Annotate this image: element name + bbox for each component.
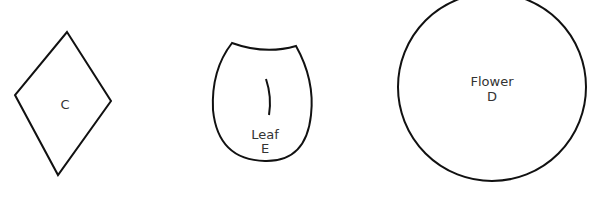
diamond-shape-c: C xyxy=(15,32,111,175)
leaf-label-letter: E xyxy=(261,141,269,156)
leaf-shape-e: Leaf E xyxy=(213,43,312,161)
diamond-label: C xyxy=(60,97,69,112)
circle-shape-d: Flower D xyxy=(398,0,586,181)
flower-label-letter: D xyxy=(487,89,497,104)
diagram-canvas: C Leaf E Flower D xyxy=(0,0,594,207)
leaf-label-name: Leaf xyxy=(251,127,279,142)
leaf-midrib xyxy=(266,79,270,115)
flower-label-name: Flower xyxy=(470,74,514,89)
